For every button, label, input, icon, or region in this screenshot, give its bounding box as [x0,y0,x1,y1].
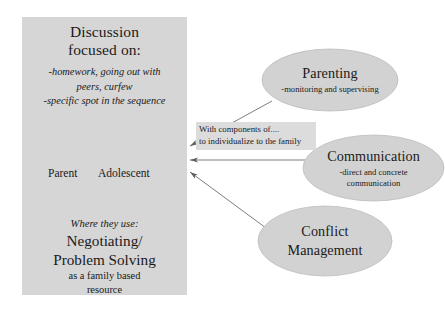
panel-footer-line3: Problem Solving [22,250,187,269]
panel-bullet-1: -homework, going out with [22,65,187,80]
conflict-management-node: Conflict Management [258,206,392,276]
panel-footer-line5: resource [22,283,187,297]
panel-footer-line1: Where they use: [22,216,187,231]
discussion-panel: Discussion focused on: -homework, going … [22,17,187,295]
panel-heading-line1: Discussion [22,23,187,41]
communication-subtitle-line2: communication [347,178,400,189]
communication-title: Communication [327,148,420,165]
conflict-to-discussion-connector [190,172,266,228]
panel-bullets: -homework, going out with peers, curfew … [22,65,187,109]
callout-line1: With components of.... [199,124,313,136]
parenting-subtitle: -monitoring and supervising [281,84,378,95]
callout-line2: to individualize to the family [199,136,313,148]
panel-footer-line2: Negotiating/ [22,231,187,250]
components-callout-label: With components of.... to individualize … [196,122,316,150]
cycle-label-parent: Parent [48,167,77,180]
cycle-label-adolescent: Adolescent [98,167,150,180]
parenting-title: Parenting [302,65,357,82]
conflict-title-line2: Management [287,241,362,260]
conflict-title-line1: Conflict [301,222,348,241]
panel-heading-line2: focused on: [22,41,187,59]
panel-bullet-2: peers, curfew [22,80,187,95]
parenting-node: Parenting -monitoring and supervising [262,49,398,111]
communication-subtitle-line1: -direct and concrete [339,167,407,178]
communication-node: Communication -direct and concrete commu… [303,135,444,201]
panel-footer-line4: as a family based [22,269,187,283]
panel-bullet-3: -specific spot in the sequence [22,94,187,109]
panel-footer: Where they use: Negotiating/ Problem Sol… [22,216,187,297]
panel-heading: Discussion focused on: [22,23,187,59]
diagram-canvas: Discussion focused on: -homework, going … [0,0,445,316]
